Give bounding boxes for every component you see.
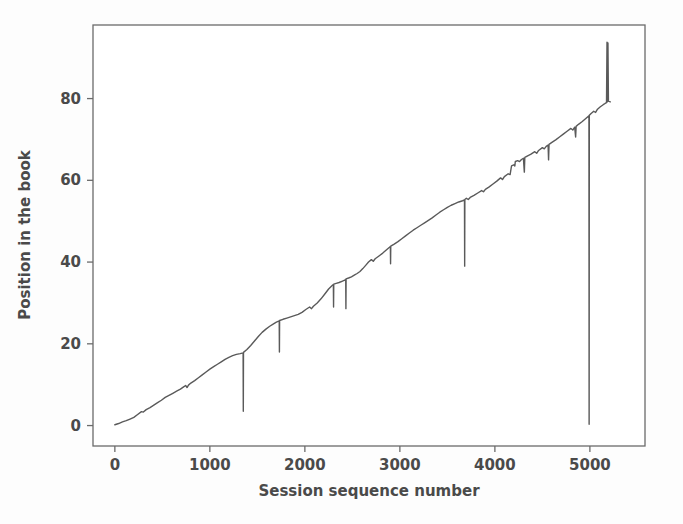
x-tick-label: 3000 <box>379 456 421 474</box>
y-tick-label: 40 <box>60 253 81 271</box>
x-tick-label: 2000 <box>284 456 326 474</box>
x-tick-label: 1000 <box>189 456 231 474</box>
y-tick-label: 0 <box>71 417 81 435</box>
x-tick-label: 5000 <box>569 456 611 474</box>
x-tick-label: 0 <box>110 456 120 474</box>
chart-figure: 010002000300040005000 020406080 Session … <box>0 0 683 524</box>
y-tick-label: 80 <box>60 90 81 108</box>
line-chart: 010002000300040005000 020406080 Session … <box>0 0 683 524</box>
x-axis-title: Session sequence number <box>258 482 480 500</box>
y-tick-label: 20 <box>60 335 81 353</box>
plot-frame <box>93 25 645 446</box>
y-axis-title: Position in the book <box>16 149 34 320</box>
x-tick-label: 4000 <box>474 456 516 474</box>
y-tick-label: 60 <box>60 171 81 189</box>
